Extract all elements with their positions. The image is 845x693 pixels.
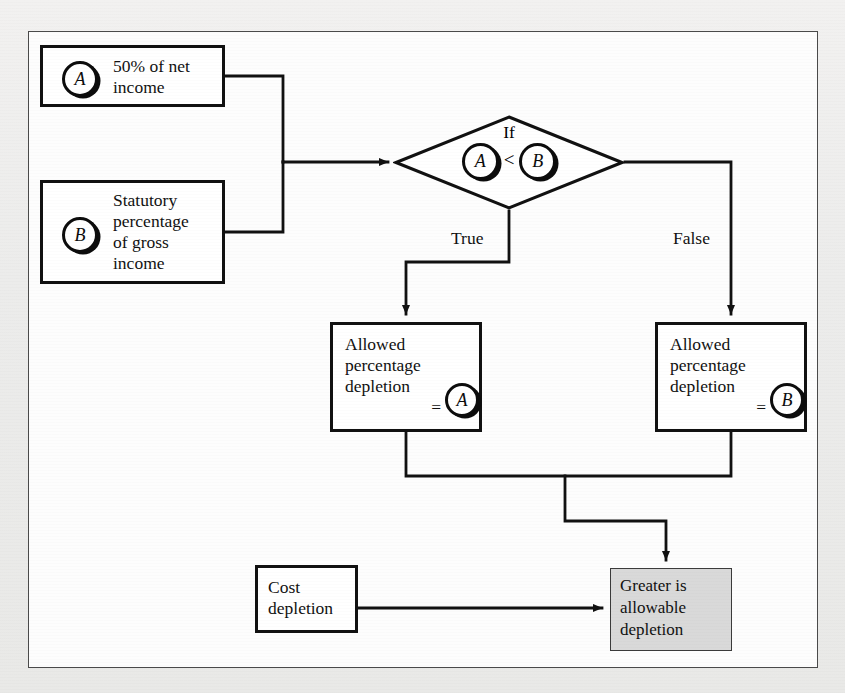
text-line: Statutory [113,190,222,211]
node-cost-depletion[interactable]: Cost depletion [255,565,358,633]
badge-a: A [462,143,499,180]
badge-b: B [770,383,804,417]
node-allowed-depletion-a[interactable]: Allowed percentage depletion = A [330,322,482,432]
badge-b: B [519,143,556,180]
text-line: allowable [620,597,731,619]
node-allowed-depletion-b[interactable]: Allowed percentage depletion = B [655,322,807,432]
equals-sign: = [345,397,441,418]
text-line: depletion [268,598,355,619]
node-statutory-percentage[interactable]: B Statutory percentage of gross income [40,180,225,284]
badge-b: B [62,217,98,253]
node-statutory-percentage-text: Statutory percentage of gross income [113,190,222,274]
text-line: income [113,77,222,98]
node-result-text: Greater is allowable depletion [620,575,731,641]
node-half-net-income-text: 50% of net income [113,56,222,98]
badge-a: A [62,61,98,97]
text-line: percentage [345,355,479,376]
text-line: Allowed [345,334,479,355]
less-than-operator: < [502,149,517,175]
node-half-net-income[interactable]: A 50% of net income [40,45,225,107]
text-line: of gross [113,232,222,253]
edge-label-false: False [673,228,710,249]
text-line: Greater is [620,575,731,597]
node-cost-depletion-text: Cost depletion [268,577,355,619]
node-greater-is-allowable-depletion[interactable]: Greater is allowable depletion [610,568,732,651]
equals-sign: = [670,397,766,418]
text-line: Allowed [670,334,804,355]
edge-label-true: True [451,228,483,249]
text-line: 50% of net [113,56,222,77]
page-background: A 50% of net income B Statutory percenta… [0,0,845,693]
text-line: depletion [620,619,731,641]
decision-keyword: If [393,122,625,143]
text-line: percentage [670,355,804,376]
text-line: Cost [268,577,355,598]
decision-comparison: A < B [393,143,625,180]
node-decision-a-less-than-b[interactable]: If A < B [393,114,625,211]
text-line: percentage [113,211,222,232]
text-line: income [113,253,222,274]
badge-a: A [445,383,479,417]
